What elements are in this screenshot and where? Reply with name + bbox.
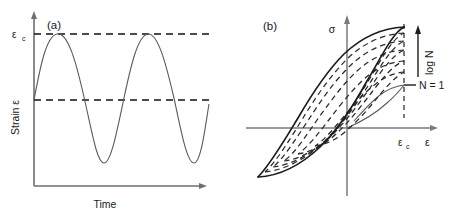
panel-b-y-axis-label: σ <box>329 23 336 35</box>
panel-a-x-axis-label: Time <box>94 198 117 210</box>
panel-b-tick-epsilon-sub: c <box>406 143 410 150</box>
panel-a-svg: ε c (a) Strain ε Time <box>0 0 228 217</box>
log-n-annotation: log N <box>423 50 435 75</box>
loop-cycle-4-upper <box>284 50 404 161</box>
strain-waveform-curve <box>34 34 209 163</box>
panel-a-strain-vs-time: ε c (a) Strain ε Time <box>0 0 228 217</box>
n-equals-1-annotation: N = 1 <box>419 79 445 91</box>
panel-b-svg: (b) σ ε c ε log N N = 1 <box>228 0 457 217</box>
panel-a-x-axis <box>34 183 207 189</box>
panel-b-y-axis <box>344 15 350 196</box>
panel-b-stress-strain-loops: (b) σ ε c ε log N N = 1 <box>228 0 457 217</box>
panel-a-tick-epsilon: ε <box>12 29 17 40</box>
loop-cycle-4-lower <box>284 50 404 161</box>
panel-b-tick-epsilon: ε <box>398 137 403 148</box>
panel-b-x-axis-label: ε <box>425 136 430 148</box>
figure-container: ε c (a) Strain ε Time <box>0 0 457 217</box>
panel-a-tick-label-epsilon-c: ε c <box>12 29 26 42</box>
panel-a-label: (a) <box>47 19 61 31</box>
log-n-arrow <box>415 25 421 77</box>
panel-a-y-axis-label: Strain ε <box>9 100 21 135</box>
panel-b-tick-label-epsilon-c: ε c <box>398 137 410 150</box>
panel-b-label: (b) <box>263 20 277 32</box>
panel-a-tick-epsilon-sub: c <box>22 35 26 42</box>
